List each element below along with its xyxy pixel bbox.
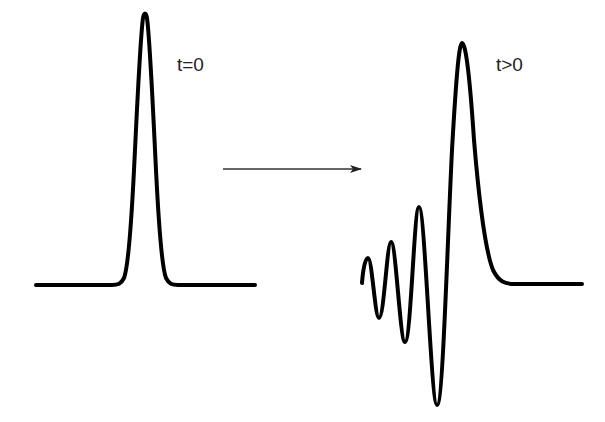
dispersed-pulse-curve <box>362 43 582 405</box>
initial-pulse-curve <box>36 14 255 286</box>
later-time-label: t>0 <box>496 54 523 75</box>
dispersion-diagram: t=0 t>0 <box>0 0 605 422</box>
initial-time-label: t=0 <box>177 54 204 75</box>
